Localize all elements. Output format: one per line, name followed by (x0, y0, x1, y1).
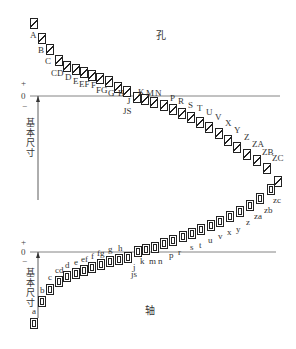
shaft-zone-label: za (254, 212, 262, 221)
shaft-zone-label: c (48, 273, 52, 282)
hole-zone-label: E (73, 77, 79, 86)
shaft-zone-label: y (236, 225, 241, 234)
shaft-title: 轴 (145, 302, 155, 317)
hole-title: 孔 (156, 27, 166, 42)
shaft-zone-box (236, 206, 244, 217)
shaft-zone-label: d (65, 261, 70, 270)
hole-zone-box (30, 18, 38, 29)
shaft-zone-label: zb (264, 206, 273, 215)
hole-zone-box (233, 142, 241, 153)
hole-zone-label: C (45, 57, 51, 66)
shaft-zone-label: m (149, 257, 156, 266)
hole-zone-box (72, 64, 80, 75)
shaft-zone-box (115, 254, 123, 265)
hole-zone-label: U (206, 108, 213, 117)
shaft-zone-label: f (91, 252, 94, 261)
basic-size-label-upper: 基本尺寸 (24, 118, 37, 158)
hole-zone-label: S (188, 101, 193, 110)
hole-zone-label: T (197, 104, 203, 113)
hole-zone-box (243, 149, 251, 160)
shaft-zone-box (106, 256, 114, 267)
shaft-zone-label: s (190, 243, 194, 252)
hole-zone-box (80, 67, 88, 78)
shaft-zone-box (226, 211, 234, 222)
shaft-zone-box (267, 184, 275, 195)
shaft-zone-label: e (74, 258, 78, 267)
shaft-zone-box (88, 262, 96, 273)
hole-zone-box (46, 44, 54, 55)
plus-sign-lower: + (21, 237, 26, 247)
shaft-zone-label: r (178, 248, 181, 257)
hole-zone-label: B (38, 46, 44, 55)
hole-zone-box (187, 112, 195, 123)
shaft-zone-box (97, 259, 105, 270)
hole-zone-label: EF (79, 80, 90, 89)
hole-zone-box (96, 73, 104, 84)
hole-zone-box (38, 33, 46, 44)
shaft-zone-label: a (32, 307, 36, 316)
hole-zone-box (105, 76, 113, 87)
shaft-zone-box (151, 242, 159, 253)
hole-zone-label: A (30, 31, 37, 40)
shaft-zone-box (46, 284, 54, 295)
hole-zone-box (274, 176, 282, 187)
hole-zone-label: X (225, 119, 232, 128)
shaft-zone-box (256, 193, 264, 204)
plus-sign-upper: + (21, 78, 26, 88)
hole-zone-label: N (155, 89, 162, 98)
shaft-zone-box (38, 296, 46, 307)
hole-zone-label: P (170, 94, 175, 103)
fundamental-deviation-diagram: 孔 轴 + 0 − 基本尺寸 + 0 − 基本尺寸 ABCCDDEEFFFGGH… (0, 0, 296, 349)
js-shaft-label: js (131, 270, 137, 279)
zero-label-upper: 0 (21, 91, 26, 101)
shaft-zone-box (188, 228, 196, 239)
js-hole-label: JS (123, 107, 132, 116)
hole-zone-label: ZC (272, 154, 284, 163)
shaft-zone-label: n (158, 257, 163, 266)
shaft-zone-label: v (218, 232, 223, 241)
hole-zone-box (224, 135, 232, 146)
hole-zone-box (253, 155, 261, 166)
hole-zone-box (196, 117, 204, 128)
minus-sign-upper: − (22, 101, 27, 111)
shaft-zone-box (30, 318, 38, 329)
shaft-zone-label: h (118, 244, 123, 253)
minus-sign-lower: − (22, 256, 27, 266)
shaft-zone-box (207, 220, 215, 231)
shaft-zone-label: fg (97, 249, 105, 258)
shaft-zone-label: ef (81, 255, 88, 264)
shaft-zone-box (246, 200, 254, 211)
shaft-zone-box (142, 244, 150, 255)
shaft-zone-box (216, 216, 224, 227)
hole-zone-label: J (127, 97, 131, 106)
hole-zone-label: FG (96, 86, 108, 95)
hole-zone-box (160, 100, 168, 111)
shaft-zone-box (160, 238, 168, 249)
hole-zone-box (178, 108, 186, 119)
shaft-zone-box (179, 231, 187, 242)
shaft-zone-box (55, 276, 63, 287)
hole-zone-label: CD (51, 69, 64, 78)
shaft-zone-box (63, 271, 71, 282)
hole-zone-box (169, 104, 177, 115)
hole-zone-box (150, 97, 158, 108)
shaft-zone-label: t (199, 241, 202, 250)
hole-zone-label: R (178, 97, 184, 106)
shaft-zone-box (80, 265, 88, 276)
shaft-zone-label: g (108, 245, 113, 254)
hole-zone-box (63, 61, 71, 72)
hole-zone-box (205, 122, 213, 133)
hole-zone-label: Y (234, 126, 241, 135)
shaft-zone-label: x (227, 228, 232, 237)
hole-zone-box (263, 163, 271, 174)
shaft-zone-label: b (40, 286, 45, 295)
shaft-zone-label: z (246, 218, 250, 227)
hole-zone-box (55, 55, 63, 66)
shaft-zone-label: p (169, 251, 174, 260)
hole-zone-label: Z (244, 133, 250, 142)
basic-size-label-lower: 基本尺寸 (24, 268, 37, 308)
hole-zone-label: V (215, 113, 222, 122)
shaft-zone-box (124, 252, 132, 263)
shaft-zone-box (169, 235, 177, 246)
shaft-zone-label: u (208, 236, 213, 245)
